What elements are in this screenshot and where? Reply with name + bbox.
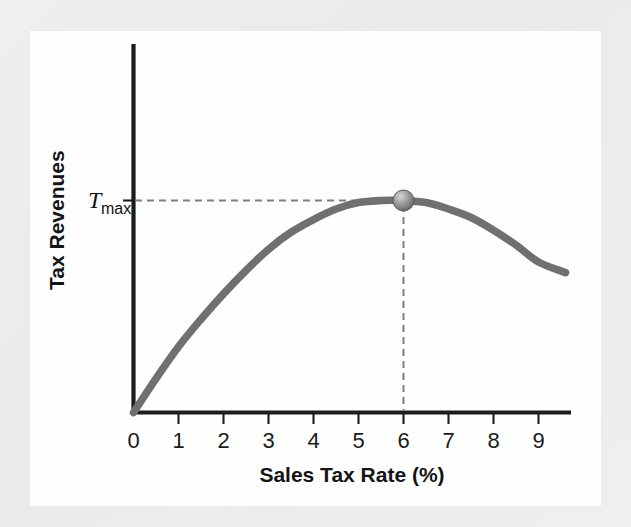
x-tick-label-4: 4 xyxy=(307,428,319,453)
x-tick-label-3: 3 xyxy=(262,428,274,453)
x-tick-label-0: 0 xyxy=(127,428,139,453)
x-tick-label-6: 6 xyxy=(397,428,409,453)
x-tick-label-8: 8 xyxy=(487,428,499,453)
tax-revenue-curve xyxy=(134,200,566,412)
laffer-curve-chart: 0 1 2 3 4 5 6 7 8 9 Tax Revenues xyxy=(0,0,631,527)
x-axis-title: Sales Tax Rate (%) xyxy=(259,463,444,486)
x-tick-label-1: 1 xyxy=(172,428,184,453)
revenue-max-marker-group[interactable] xyxy=(393,190,414,211)
tmax-subscript: max xyxy=(101,200,131,217)
y-axis-title: Tax Revenues xyxy=(45,150,68,290)
x-tick-label-5: 5 xyxy=(352,428,364,453)
curve-group xyxy=(134,200,566,412)
x-tick-label-2: 2 xyxy=(217,428,229,453)
x-tick-label-9: 9 xyxy=(532,428,544,453)
annotation-guides xyxy=(135,201,404,412)
tmax-label-group: T max xyxy=(88,187,131,217)
axes-group xyxy=(132,44,572,413)
x-tick-labels: 0 1 2 3 4 5 6 7 8 9 xyxy=(127,428,544,453)
revenue-max-sphere-marker[interactable] xyxy=(393,190,414,211)
y-axis-title-group: Tax Revenues xyxy=(45,150,68,290)
x-tick-label-7: 7 xyxy=(442,428,454,453)
screenshot-root: 0 1 2 3 4 5 6 7 8 9 Tax Revenues xyxy=(0,0,631,527)
